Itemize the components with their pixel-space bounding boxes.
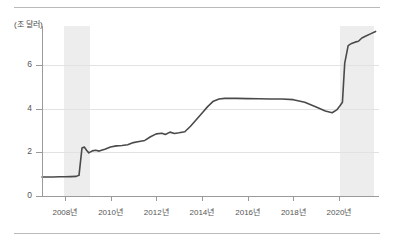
x-tick-label-2014: 2014년	[190, 206, 215, 217]
x-tick-2008	[65, 196, 66, 201]
x-tick-label-2012: 2012년	[144, 206, 169, 217]
x-tick-2010	[111, 196, 112, 201]
y-axis-unit-label: (조 달러)	[14, 18, 43, 29]
top-divider-rule	[14, 7, 380, 8]
y-tick-0	[36, 196, 42, 197]
y-tick-label-0: 0	[6, 191, 32, 200]
y-tick-6	[36, 65, 42, 66]
y-tick-4	[36, 109, 42, 110]
x-axis-line	[42, 196, 379, 197]
bottom-divider-rule	[14, 233, 380, 234]
y-axis-line	[42, 26, 43, 196]
x-tick-2016	[248, 196, 249, 201]
x-tick-2012	[156, 196, 157, 201]
x-tick-label-2010: 2010년	[98, 206, 123, 217]
plot-area	[42, 26, 379, 196]
y-tick-2	[36, 152, 42, 153]
x-tick-2018	[293, 196, 294, 201]
x-tick-2014	[202, 196, 203, 201]
x-tick-2020	[339, 196, 340, 201]
y-tick-label-4: 4	[6, 104, 32, 113]
y-tick-label-6: 6	[6, 60, 32, 69]
series-layer	[42, 26, 379, 196]
x-tick-label-2008: 2008년	[52, 206, 77, 217]
x-tick-label-2018: 2018년	[281, 206, 306, 217]
x-tick-label-2020: 2020년	[327, 206, 352, 217]
y-tick-label-2: 2	[6, 147, 32, 156]
x-tick-label-2016: 2016년	[235, 206, 260, 217]
series-line-0	[42, 31, 376, 177]
chart-figure: (조 달러) 0246 2008년2010년2012년2014년2016년201…	[0, 0, 394, 243]
